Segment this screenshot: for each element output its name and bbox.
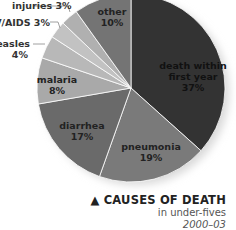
- label-pneumonia: pneumonia 19%: [118, 141, 184, 163]
- caption-title: ▲ CAUSES OF DEATH: [90, 193, 226, 207]
- caption-date: 2000–03: [90, 219, 226, 230]
- label-diarrhea: diarrhea 17%: [52, 120, 112, 142]
- label-hiv-aids: HIV/AIDS 3%: [0, 17, 50, 28]
- label-injuries: injuries 3%: [12, 0, 72, 11]
- label-measles: measles 4%: [0, 38, 30, 60]
- label-other: other 10%: [92, 6, 132, 28]
- label-death-within-first-year: death within first year 37%: [158, 60, 228, 93]
- caption-subtitle: in under-fives: [90, 207, 226, 219]
- chart-caption: ▲ CAUSES OF DEATH in under-fives 2000–03: [90, 193, 226, 230]
- label-malaria: malaria 8%: [30, 74, 84, 96]
